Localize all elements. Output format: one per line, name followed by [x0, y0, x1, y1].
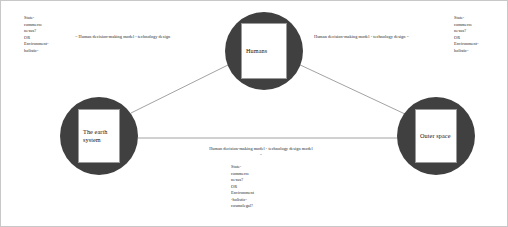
node-earth-system-box: The earth system	[78, 109, 120, 163]
node-outer-space-label: Outer space	[416, 132, 452, 140]
edge-humans-outer	[296, 63, 405, 114]
edge-label-humans-outer: Human decision-making model - technology…	[314, 34, 409, 40]
edge-label-earth-outer: Human decision-making model - technology…	[181, 146, 341, 159]
node-humans-label: Humans	[242, 47, 269, 55]
node-outer-space[interactable]: Outer space	[397, 97, 475, 175]
annotation-top-left: State- commerce nexus? OR Environment- h…	[24, 15, 70, 54]
node-earth-system[interactable]: The earth system	[60, 97, 138, 175]
node-humans-box: Humans	[241, 23, 287, 79]
annotation-top-right: State- commerce nexus? OR Environment- h…	[454, 15, 502, 54]
node-humans[interactable]: Humans	[225, 12, 303, 90]
diagram-canvas: The earth system Humans Outer space Stat…	[0, 0, 508, 227]
annotation-bottom-center: State- commerce nexus? OR Environment -h…	[231, 164, 291, 210]
edge-earth-humans	[131, 63, 232, 113]
edge-label-earth-humans: = Human decision-making model - technolo…	[75, 34, 170, 40]
node-earth-system-label: The earth system	[79, 128, 119, 144]
node-outer-space-box: Outer space	[415, 109, 457, 163]
